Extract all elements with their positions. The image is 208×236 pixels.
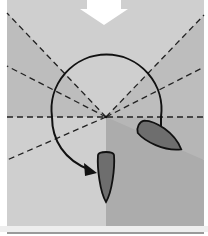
sailing-maneuver-diagram — [0, 0, 208, 236]
bottom-strip — [0, 226, 208, 232]
center-point — [105, 116, 107, 118]
bottom-rule — [7, 232, 204, 234]
